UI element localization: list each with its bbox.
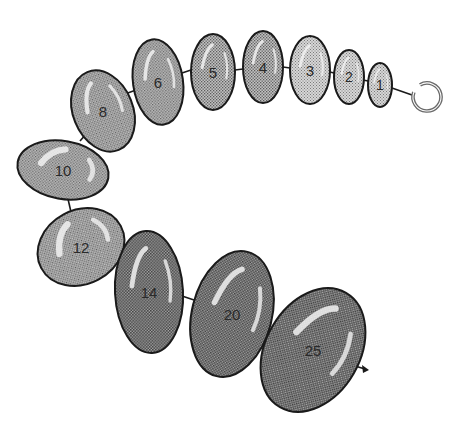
bead-2: 2 [334,50,364,104]
bead-label: 14 [141,284,158,301]
bead-label: 2 [345,69,353,85]
bead-label: 4 [259,59,267,76]
bead-label: 3 [306,62,314,79]
bead-label: 1 [376,77,384,93]
bead-label: 12 [73,239,90,256]
bead-14: 14 [112,229,186,354]
bead-label: 25 [305,342,322,359]
ring-stroke [412,82,442,112]
connector-line [283,67,290,68]
bead-label: 20 [224,306,241,323]
connector-line [392,88,412,95]
bead-4: 4 [243,31,283,103]
bead-6: 6 [127,36,188,128]
bead-label: 8 [99,103,107,120]
clasp-ring-icon [412,82,442,112]
connector-line [68,199,71,212]
bead-5: 5 [191,34,235,110]
bead-label: 10 [55,162,72,179]
connector-line [235,69,243,70]
bead-label: 6 [154,74,162,91]
bead-1: 1 [368,63,392,107]
ring-stroke [414,84,440,110]
beads: 12345681012142025 [13,31,392,431]
bead-3: 3 [290,36,330,104]
diagram-canvas: 12345681012142025 [0,0,456,435]
bead-label: 5 [209,64,217,81]
connector-line [182,70,191,73]
bead-chain-diagram: 12345681012142025 [0,0,456,435]
